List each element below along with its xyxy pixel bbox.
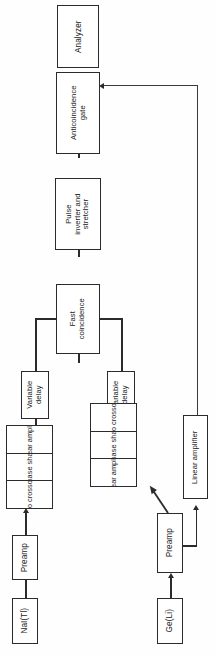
- chain-ge-amplifier-group[interactable]: Zero crossover Biphase shaper Linear amp…: [90, 403, 137, 487]
- chain-nai-cell-2-label: Zero crossover: [25, 481, 34, 508]
- connector-linamp-to-analyzer-riser: [197, 85, 198, 415]
- block-variable-delay-left[interactable]: Variable delay: [21, 371, 49, 419]
- connector-vdelay-left-riser: [35, 318, 37, 371]
- block-analyzer[interactable]: Analyzer: [57, 5, 99, 68]
- block-detector-nai-label: NaI(Tl): [20, 608, 29, 634]
- connector-vdelay-right-riser: [121, 318, 123, 371]
- connector-preampnai-to-naichain: [25, 513, 27, 535]
- block-preamp-nai[interactable]: Preamp: [12, 535, 38, 580]
- block-detector-ge-label: Ge(Li): [165, 609, 174, 632]
- connector-nai-to-preamp: [25, 578, 27, 598]
- chain-ge-cell-2[interactable]: Linear amplifier: [91, 459, 136, 486]
- chain-nai-cell-1[interactable]: Biphase shaper: [7, 454, 52, 482]
- block-diagram-canvas: − + Analyzer Anticoincidence gate Pulse …: [0, 0, 216, 655]
- block-detector-nai[interactable]: NaI(Tl): [12, 598, 38, 644]
- block-preamp-nai-label: Preamp: [20, 543, 29, 572]
- chain-ge-cell-1-label: Biphase shaper: [109, 432, 118, 460]
- block-anticoincidence-gate-label: Anticoincidence gate: [69, 86, 86, 141]
- chain-ge-cell-0-label: Zero crossover: [109, 404, 118, 432]
- chain-nai-cell-0-label: Linear amplifier: [25, 426, 34, 454]
- connector-vdelay-right-run: [100, 318, 122, 320]
- block-pulse-inverter-stretcher-label: Pulse inverter and stretcher: [65, 193, 91, 234]
- chain-nai-cell-0[interactable]: Linear amplifier: [7, 426, 52, 454]
- connector-vdelay-left-run: [35, 318, 57, 320]
- block-preamp-ge[interactable]: Preamp: [157, 513, 183, 573]
- block-linear-amplifier-ge[interactable]: Linear amplifier: [183, 415, 208, 499]
- block-detector-ge[interactable]: Ge(Li): [157, 598, 183, 644]
- chain-ge-cell-2-label: Linear amplifier: [109, 459, 118, 486]
- chain-nai-cell-2[interactable]: Zero crossover: [7, 481, 52, 508]
- block-fast-coincidence-label: Fast coincidence: [69, 298, 86, 339]
- block-fast-coincidence[interactable]: Fast coincidence: [56, 284, 100, 354]
- connector-preampge-to-linamp-riser: [196, 510, 198, 546]
- chain-nai-amplifier-group[interactable]: Linear amplifier Biphase shaper Zero cro…: [6, 425, 53, 509]
- connector-linamp-to-analyzer-run: [104, 85, 198, 86]
- chain-nai-cell-1-label: Biphase shaper: [25, 454, 34, 482]
- block-variable-delay-left-label: Variable delay: [26, 381, 43, 409]
- chain-ge-cell-1[interactable]: Biphase shaper: [91, 432, 136, 460]
- arrowhead-linamp-ge-in: [193, 505, 199, 510]
- block-linear-amplifier-ge-label: Linear amplifier: [191, 430, 200, 484]
- chain-ge-cell-0[interactable]: Zero crossover: [91, 404, 136, 432]
- block-analyzer-label: Analyzer: [73, 20, 82, 53]
- block-pulse-inverter-stretcher[interactable]: Pulse inverter and stretcher: [55, 178, 101, 250]
- arrowhead-preampge-in: [168, 573, 174, 578]
- block-preamp-ge-label: Preamp: [165, 528, 174, 557]
- block-anticoincidence-gate[interactable]: Anticoincidence gate: [56, 72, 100, 154]
- connector-ge-to-preamp: [170, 578, 172, 598]
